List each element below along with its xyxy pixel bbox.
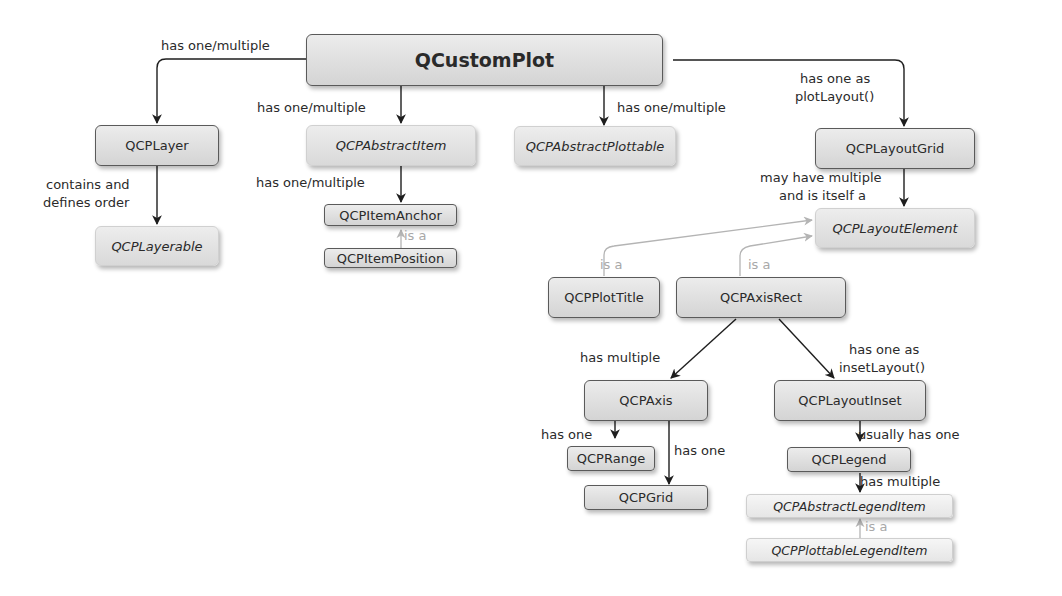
node-qcplegend: QCPLegend <box>787 447 911 472</box>
label-root-plottable: has one/multiple <box>617 100 726 116</box>
node-qcpitemanchor: QCPItemAnchor <box>324 204 457 226</box>
edge-axisrect-inset <box>779 319 834 378</box>
node-qcustomplot: QCustomPlot <box>306 34 663 86</box>
label-axis-grid: has one <box>674 443 725 459</box>
node-qcpaxisrect: QCPAxisRect <box>676 277 846 318</box>
node-qcplayer: QCPLayer <box>95 125 219 166</box>
node-qcplayoutgrid: QCPLayoutGrid <box>815 128 975 169</box>
label-root-item: has one/multiple <box>257 100 366 116</box>
edge-title-isa-element <box>604 220 812 276</box>
edge-axisrect-axis <box>671 319 736 378</box>
node-qcpabstractitem: QCPAbstractItem <box>306 125 476 166</box>
label-grid-element-2: and is itself a <box>779 188 866 204</box>
node-qcpabstractplottable: QCPAbstractPlottable <box>514 126 676 166</box>
label-axisrect-axis: has multiple <box>580 350 660 366</box>
label-inset-legend: usually has one <box>858 427 960 443</box>
node-qcplayoutelement: QCPLayoutElement <box>815 208 975 248</box>
label-root-layer: has one/multiple <box>161 38 270 54</box>
node-qcplayerable: QCPLayerable <box>95 226 219 266</box>
label-title-isa: is a <box>600 257 622 273</box>
label-layer-layerable-2: defines order <box>43 195 129 211</box>
node-qcpplottitle: QCPPlotTitle <box>548 277 660 318</box>
label-layer-layerable-1: contains and <box>46 177 130 193</box>
node-qcprange: QCPRange <box>567 446 655 471</box>
label-position-isa: is a <box>404 228 426 244</box>
label-grid-element-1: may have multiple <box>760 170 882 186</box>
label-root-grid-1: has one as <box>800 71 870 87</box>
label-axisrect-inset-1: has one as <box>849 342 919 358</box>
label-legenditem-isa: is a <box>865 519 887 535</box>
node-qcpplottablelegenditem: QCPPlottableLegendItem <box>746 538 953 562</box>
label-axisrect-isa: is a <box>748 257 770 273</box>
label-root-grid-2: plotLayout() <box>795 89 874 105</box>
node-qcplayoutinset: QCPLayoutInset <box>774 380 926 421</box>
label-axisrect-inset-2: insetLayout() <box>839 360 925 376</box>
node-qcpitemposition: QCPItemPosition <box>324 248 457 268</box>
label-axis-range: has one <box>541 427 592 443</box>
node-qcpgrid: QCPGrid <box>584 485 708 510</box>
label-legend-items: has multiple <box>860 474 940 490</box>
node-qcpabstractlegenditem: QCPAbstractLegendItem <box>746 494 953 518</box>
node-qcpaxis: QCPAxis <box>584 380 708 421</box>
label-item-anchor: has one/multiple <box>256 175 365 191</box>
